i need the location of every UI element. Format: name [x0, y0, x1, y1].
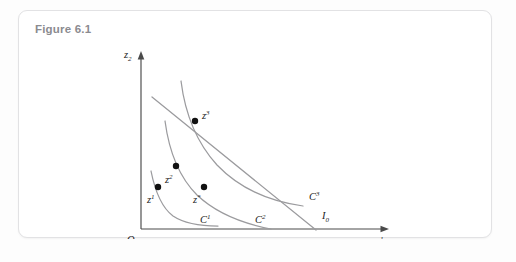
- origin-label: O: [127, 234, 135, 239]
- curve-label-c3: C3: [309, 190, 320, 202]
- curve-label-c2: C2: [255, 213, 266, 225]
- curves-group: [151, 81, 303, 229]
- data-point-zstar: [201, 184, 207, 190]
- figure-card: Figure 6.1 z2 z1 O: [18, 10, 492, 238]
- axes-group: [138, 51, 389, 232]
- data-point-label-zstar: z*: [192, 193, 201, 205]
- data-point-label-z2-superscript: 2: [169, 173, 173, 181]
- data-point-label-z1: z1: [146, 193, 155, 205]
- curve-label-c1: C1: [200, 213, 211, 225]
- data-point-z3: [192, 118, 198, 124]
- curve-c2: [165, 121, 271, 229]
- data-point-label-zstar-superscript: *: [197, 193, 201, 201]
- curve-label-c1-superscript: 1: [207, 213, 211, 221]
- curve-c3: [181, 81, 303, 206]
- data-point-label-z3: z3: [201, 109, 210, 121]
- data-point-label-z3-superscript: 3: [205, 109, 210, 117]
- figure-plot: z2 z1 O C1 C2: [19, 11, 493, 239]
- budget-line-label-i0: I0: [321, 210, 330, 224]
- data-point-label-z1-superscript: 1: [151, 193, 155, 201]
- y-axis-label-subscript: 2: [128, 55, 132, 63]
- data-point-label-z2: z2: [164, 173, 173, 185]
- curve-label-c2-superscript: 2: [262, 213, 266, 221]
- curve-label-c3-superscript: 3: [315, 190, 320, 198]
- budget-line-label-subscript: 0: [326, 216, 330, 224]
- x-axis-label-superscript: 1: [380, 235, 384, 239]
- data-point-z2: [173, 163, 179, 169]
- y-axis-label: z2: [123, 49, 132, 63]
- screenshot-root: Figure 6.1 z2 z1 O: [0, 0, 516, 262]
- x-axis-arrowhead: [381, 226, 390, 233]
- data-points-group: [155, 118, 207, 190]
- x-axis-label: z1: [375, 235, 384, 239]
- data-point-z1: [155, 184, 161, 190]
- y-axis-arrowhead: [138, 51, 145, 60]
